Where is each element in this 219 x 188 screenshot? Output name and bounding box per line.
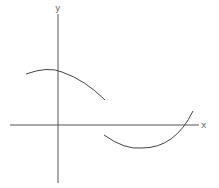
left-branch-curve [26,69,105,100]
x-axis-label: x [201,120,207,130]
function-graph: x y [0,0,219,188]
graph-svg: x y [0,0,219,188]
y-axis-label: y [55,3,61,13]
right-branch-curve [104,111,193,148]
